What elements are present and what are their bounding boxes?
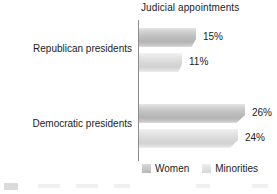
- bar-value-republican-women: 15%: [203, 31, 223, 42]
- cropped-text-smudge: [76, 184, 98, 188]
- legend-label-minorities: Minorities: [215, 163, 258, 174]
- bar-value-democratic-minorities: 24%: [245, 132, 265, 143]
- cropped-bottom-strip: [0, 180, 277, 194]
- legend-entry-women[interactable]: Women: [142, 163, 189, 174]
- cropped-text-smudge: [196, 184, 210, 188]
- bar-value-republican-minorities: 11%: [189, 56, 208, 67]
- chart-legend: Women Minorities: [142, 163, 258, 174]
- cropped-swatch: [4, 183, 18, 190]
- category-label-republican-presidents: Republican presidents: [33, 43, 132, 54]
- bar-value-democratic-women: 26%: [252, 107, 272, 118]
- bar-democratic-women[interactable]: [139, 104, 245, 123]
- cropped-text-smudge: [114, 184, 130, 188]
- cropped-text-smudge: [252, 184, 268, 188]
- bar-republican-minorities[interactable]: [139, 53, 182, 72]
- cropped-text-smudge: [38, 184, 60, 188]
- legend-label-women: Women: [155, 163, 189, 174]
- value-axis-line: [138, 20, 139, 161]
- bar-republican-women[interactable]: [139, 28, 196, 47]
- chart-container: Judicial appointments Republican preside…: [0, 0, 277, 194]
- legend-swatch-women-icon: [142, 164, 151, 173]
- legend-swatch-minorities-icon: [202, 164, 211, 173]
- category-label-democratic-presidents: Democratic presidents: [33, 118, 132, 129]
- legend-entry-minorities[interactable]: Minorities: [202, 163, 258, 174]
- bar-democratic-minorities[interactable]: [139, 129, 238, 148]
